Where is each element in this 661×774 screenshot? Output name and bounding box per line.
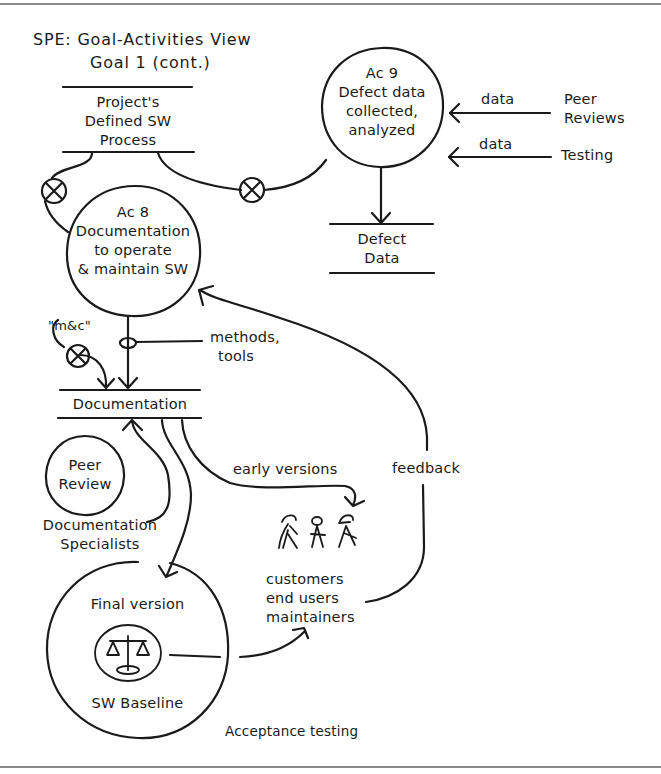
activity-ac8: Ac 8 Documentation to operate & maintain… — [68, 203, 198, 279]
store-project-process: Project's Defined SW Process — [62, 93, 194, 150]
junction-left-icon — [42, 179, 66, 203]
activity-ac9: Ac 9 Defect data collected, analyzed — [322, 64, 442, 140]
flow-label-early-versions: early versions — [233, 460, 337, 479]
documentation-to-final-version-arrow — [159, 420, 191, 577]
flow-label-mc: "m&c" — [48, 316, 91, 335]
activity-peer-review: Peer Review — [46, 456, 124, 494]
source-testing: Testing — [561, 146, 613, 165]
people-group-icon — [279, 515, 356, 548]
flow-label-methods-tools: methods, tools — [210, 328, 280, 366]
store-defect-data: Defect Data — [330, 230, 434, 268]
final-version-label: Final version — [60, 595, 215, 614]
specialists-to-documentation-arrow — [123, 420, 170, 522]
junction-right-icon — [240, 178, 264, 202]
flow-label-feedback: feedback — [392, 459, 460, 478]
actor-users: customers end users maintainers — [266, 570, 355, 627]
ac8-to-documentation-arrow — [119, 316, 137, 388]
ac9-to-defect-data-arrow — [372, 167, 390, 223]
flow-label-data-2: data — [479, 135, 512, 154]
diagram-title: SPE: Goal-Activities View — [33, 30, 251, 49]
final-version-to-users-arrow — [170, 628, 308, 657]
flow-label-data-1: data — [481, 90, 514, 109]
flow-label-acceptance-testing: Acceptance testing — [225, 722, 358, 741]
source-peer-reviews: Peer Reviews — [564, 90, 625, 128]
scales-icon — [95, 625, 161, 681]
sw-baseline-label: SW Baseline — [60, 694, 215, 713]
diagram-subtitle: Goal 1 (cont.) — [90, 53, 211, 72]
methods-tools-line — [136, 341, 202, 342]
store-documentation: Documentation — [58, 395, 202, 414]
actor-documentation-specialists: Documentation Specialists — [40, 516, 160, 554]
